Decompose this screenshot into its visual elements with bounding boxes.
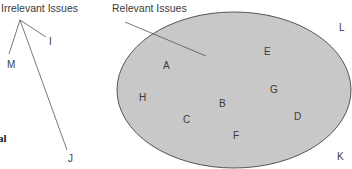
irrelevant-issue-k: K <box>337 151 344 162</box>
irrelevant-issue-j: J <box>68 153 73 164</box>
irrelevant-issue-i: I <box>49 36 52 47</box>
relevant-issues-title: Relevant Issues <box>112 3 187 14</box>
line-to-M <box>9 20 20 54</box>
relevant-issue-g: G <box>270 84 278 95</box>
irrelevant-pointer-lines <box>9 20 67 150</box>
line-to-I <box>20 20 46 37</box>
relevant-issue-f: F <box>233 130 239 141</box>
relevant-issue-d: D <box>294 111 301 122</box>
relevant-issue-c: C <box>183 114 190 125</box>
cropped-text-fragment: al <box>0 132 7 144</box>
irrelevant-issue-m: M <box>7 59 15 70</box>
relevant-issue-h: H <box>139 92 146 103</box>
issues-diagram <box>0 0 352 169</box>
irrelevant-issue-l: L <box>339 22 345 33</box>
relevant-issue-a: A <box>163 60 170 71</box>
irrelevant-issues-title: Irrelevant Issues <box>1 3 78 14</box>
relevant-issue-b: B <box>219 98 226 109</box>
relevant-issue-e: E <box>264 46 271 57</box>
line-to-J <box>20 20 67 150</box>
relevant-issues-ellipse <box>117 12 351 168</box>
